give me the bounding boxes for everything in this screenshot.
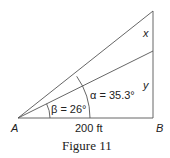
figure-caption: Figure 11 — [62, 138, 112, 153]
segment-x-label: x — [142, 27, 149, 39]
point-b-label: B — [156, 122, 163, 134]
base-length-label: 200 ft — [75, 122, 103, 134]
triangle-diagram: x y α = 35.3° β = 26° A 200 ft B Figure … — [0, 0, 170, 158]
alpha-angle-label: α = 35.3° — [90, 89, 135, 101]
beta-arc — [47, 104, 50, 118]
upper-hypotenuse — [18, 11, 153, 118]
segment-y-label: y — [142, 79, 150, 91]
beta-angle-label: β = 26° — [51, 103, 87, 115]
point-a-label: A — [10, 122, 18, 134]
